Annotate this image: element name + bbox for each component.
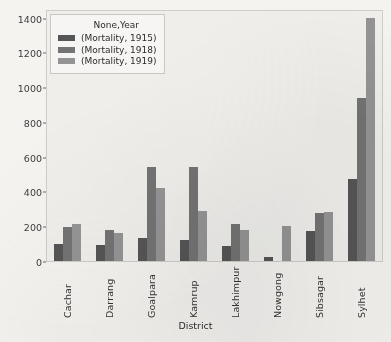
bar-group xyxy=(222,11,249,261)
bar xyxy=(306,231,315,261)
bar-group xyxy=(264,11,291,261)
bar xyxy=(72,224,81,261)
y-axis-tick-label: 1400 xyxy=(2,13,42,24)
legend-entry: (Mortality, 1915) xyxy=(58,33,157,43)
y-axis-tick-label: 400 xyxy=(2,187,42,198)
bar xyxy=(114,233,123,261)
bar xyxy=(240,230,249,261)
bar xyxy=(324,212,333,261)
legend-entry: (Mortality, 1918) xyxy=(58,45,157,55)
bar xyxy=(222,246,231,261)
bar xyxy=(147,167,156,261)
bar xyxy=(96,245,105,262)
legend-label: (Mortality, 1919) xyxy=(81,56,157,66)
legend-label: (Mortality, 1918) xyxy=(81,45,157,55)
y-axis-tick-label: 0 xyxy=(2,257,42,268)
bar xyxy=(231,224,240,261)
x-axis-tick-labels: CacharDarrangGoalparaKamrupLakhimpurNowg… xyxy=(46,263,383,318)
legend-swatch xyxy=(58,35,75,41)
chart-figure: 0200400600800100012001400 CacharDarrangG… xyxy=(0,0,391,342)
legend-entry: (Mortality, 1919) xyxy=(58,56,157,66)
bar xyxy=(348,179,357,261)
legend-title: None,Year xyxy=(58,20,157,30)
bar-group xyxy=(348,11,375,261)
bar-group xyxy=(306,11,333,261)
x-axis-tick-label-cell: Lakhimpur xyxy=(215,263,257,318)
y-axis-tick-label: 800 xyxy=(2,117,42,128)
legend-swatch xyxy=(58,47,75,53)
bar xyxy=(54,244,63,261)
x-axis-title: District xyxy=(0,320,391,331)
x-axis-tick-label-cell: Kamrup xyxy=(172,263,214,318)
bar xyxy=(357,98,366,261)
bar xyxy=(156,188,165,261)
y-axis-tick-label: 600 xyxy=(2,152,42,163)
x-axis-tick-label: Darrang xyxy=(104,263,115,318)
y-axis-tick-mark xyxy=(43,122,46,123)
bar xyxy=(366,18,375,261)
bar xyxy=(282,226,291,261)
bar xyxy=(63,227,72,261)
bar xyxy=(264,257,273,261)
bar-group xyxy=(180,11,207,261)
y-axis-tick-label: 200 xyxy=(2,222,42,233)
y-axis-tick-mark xyxy=(43,227,46,228)
x-axis-tick-label: Nowgong xyxy=(272,263,283,318)
y-axis-tick-mark xyxy=(43,157,46,158)
legend-swatch xyxy=(58,58,75,64)
x-axis-tick-label-cell: Cachar xyxy=(46,263,88,318)
x-axis-tick-label: Cachar xyxy=(62,263,73,318)
y-axis-tick-mark xyxy=(43,88,46,89)
x-axis-tick-label: Kamrup xyxy=(188,263,199,318)
x-axis-tick-label: Lakhimpur xyxy=(230,263,241,318)
legend-entries: (Mortality, 1915)(Mortality, 1918)(Morta… xyxy=(58,33,157,66)
legend-label: (Mortality, 1915) xyxy=(81,33,157,43)
bar xyxy=(138,238,147,261)
x-axis-tick-label-cell: Nowgong xyxy=(257,263,299,318)
y-axis-tick-mark xyxy=(43,18,46,19)
y-axis-tick-label: 1200 xyxy=(2,48,42,59)
x-axis-tick-label: Sibsagar xyxy=(314,263,325,318)
y-axis-tick-label: 1000 xyxy=(2,83,42,94)
x-axis-tick-label: Sylhet xyxy=(356,263,367,318)
bar xyxy=(198,211,207,261)
x-axis-tick-label-cell: Sylhet xyxy=(341,263,383,318)
x-axis-tick-label: Goalpara xyxy=(146,263,157,318)
bar xyxy=(315,213,324,261)
bar xyxy=(105,230,114,261)
y-axis-tick-mark xyxy=(43,53,46,54)
bar xyxy=(189,167,198,261)
y-axis-tick-mark xyxy=(43,192,46,193)
x-axis-tick-label-cell: Sibsagar xyxy=(299,263,341,318)
bar xyxy=(180,240,189,261)
x-axis-tick-label-cell: Darrang xyxy=(88,263,130,318)
x-axis-tick-label-cell: Goalpara xyxy=(130,263,172,318)
legend: None,Year (Mortality, 1915)(Mortality, 1… xyxy=(50,14,165,74)
